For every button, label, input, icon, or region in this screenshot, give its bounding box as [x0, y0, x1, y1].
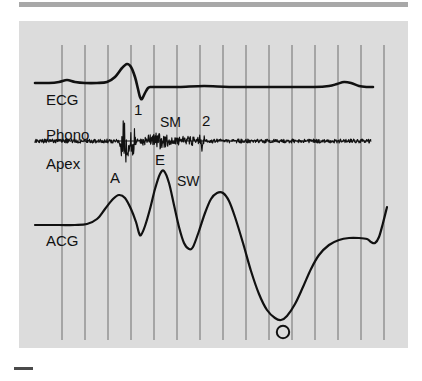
s2-label: 2	[202, 112, 210, 129]
acg-trace	[35, 170, 387, 320]
sw-wave-label: SW	[177, 173, 200, 189]
figure-root: ECG Phono Apex ACG 1 SM 2 A E SW	[0, 0, 422, 381]
a-wave-label: A	[110, 169, 120, 186]
acg-label: ACG	[46, 232, 79, 249]
phono-label: Phono	[46, 126, 89, 143]
apex-label: Apex	[46, 155, 81, 172]
recording-panel: ECG Phono Apex ACG 1 SM 2 A E SW	[19, 21, 408, 348]
ecg-label: ECG	[46, 91, 79, 108]
e-point-label: E	[155, 151, 165, 168]
trace-paths	[35, 64, 387, 320]
sm-label: SM	[160, 114, 181, 130]
caption-dash	[14, 367, 33, 370]
o-point-marker-icon	[277, 326, 289, 338]
ecg-trace	[35, 64, 373, 99]
s1-label: 1	[134, 101, 142, 118]
waveform-chart: ECG Phono Apex ACG 1 SM 2 A E SW	[19, 21, 408, 348]
top-rule-bar	[19, 2, 408, 7]
